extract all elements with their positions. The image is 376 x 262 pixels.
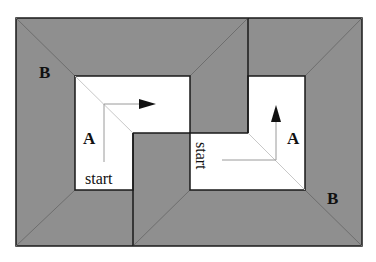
label-b-top-left: B xyxy=(39,63,50,82)
label-b-bottom-right: B xyxy=(327,189,338,208)
label-a-left: A xyxy=(83,129,96,148)
diagram-canvas: B B A A start start xyxy=(0,0,376,262)
label-a-right: A xyxy=(287,129,300,148)
label-start-left: start xyxy=(85,170,113,187)
label-start-right: start xyxy=(193,142,210,170)
